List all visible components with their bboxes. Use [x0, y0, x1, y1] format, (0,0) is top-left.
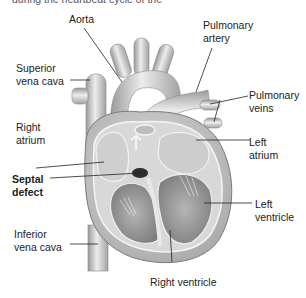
label-right-atrium: Right atrium: [16, 121, 45, 146]
label-left-ventricle: Left ventricle: [255, 198, 294, 223]
label-aorta: Aorta: [69, 13, 94, 26]
label-inferior-vena-cava: Inferior vena cava: [14, 228, 62, 253]
label-septal-defect: Septal defect: [12, 173, 44, 198]
label-superior-vena-cava: Superior vena cava: [16, 62, 64, 87]
label-pulmonary-veins: Pulmonary veins: [249, 89, 299, 114]
label-right-ventricle: Right ventricle: [150, 276, 217, 289]
label-pulmonary-artery: Pulmonary artery: [203, 19, 253, 44]
aortic-valve-ring: [135, 125, 155, 135]
label-left-atrium: Left atrium: [249, 136, 278, 161]
